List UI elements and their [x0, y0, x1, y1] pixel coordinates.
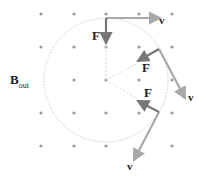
velocity-label-3: v [127, 160, 133, 172]
force-label-3: F [144, 85, 152, 101]
radius-lines [106, 40, 136, 98]
force-label-1: F [92, 28, 100, 44]
velocity-label-1: v [159, 14, 165, 26]
magnetic-force-diagram: Bout F F F v v v [0, 0, 206, 181]
velocity-label-2: v [188, 91, 194, 103]
diagram-canvas [0, 0, 206, 181]
force-label-2: F [142, 60, 150, 76]
field-label: Bout [10, 72, 29, 90]
